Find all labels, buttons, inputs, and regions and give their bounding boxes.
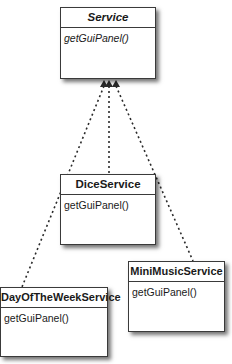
class-name: MiniMusicService — [129, 262, 224, 282]
arrowheads-icon — [100, 80, 120, 87]
service-interface-box: Service getGuiPanel() — [60, 7, 156, 79]
diceservice-class-box: DiceService getGuiPanel() — [60, 174, 156, 245]
method: getGuiPanel() — [1, 308, 107, 328]
method: getGuiPanel() — [61, 195, 155, 215]
dayoftheweekservice-class-box: DayOfTheWeekService getGuiPanel() — [0, 287, 108, 357]
class-name: Service — [61, 8, 155, 28]
method: getGuiPanel() — [61, 28, 155, 48]
minimusicservice-class-box: MiniMusicService getGuiPanel() — [128, 261, 225, 332]
class-name: DayOfTheWeekService — [1, 288, 107, 308]
class-name: DiceService — [61, 175, 155, 195]
method: getGuiPanel() — [129, 282, 224, 302]
